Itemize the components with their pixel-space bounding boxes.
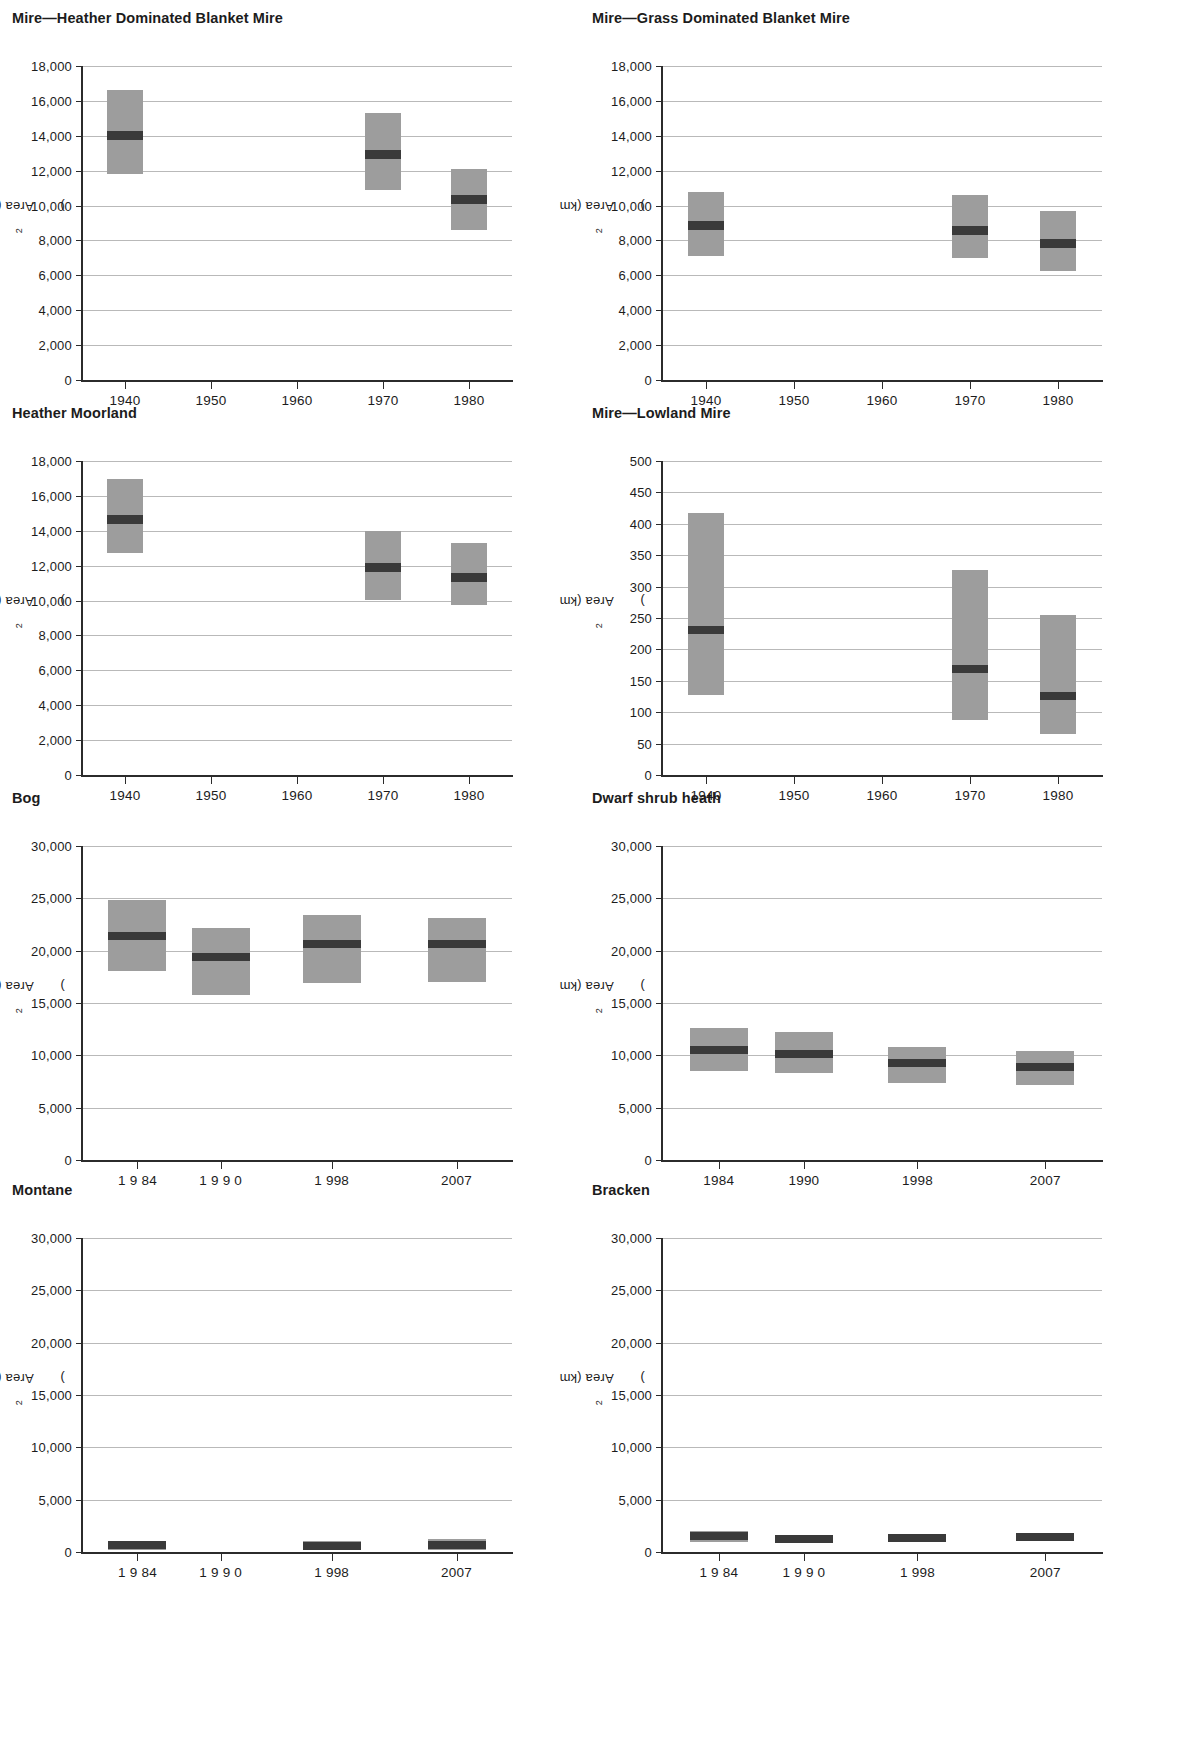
y-tick-label: 14,000 [31, 523, 72, 538]
gridline [662, 587, 1102, 588]
gridline [82, 1108, 512, 1109]
gridline [662, 1395, 1102, 1396]
median-marker [1016, 1063, 1074, 1071]
x-tick-mark [706, 777, 707, 784]
x-tick-mark [297, 777, 298, 784]
gridline [82, 66, 512, 67]
y-tick-label: 0 [65, 768, 72, 783]
y-axis-label-exponent: 2 [594, 1400, 604, 1405]
gridline [662, 66, 1102, 67]
x-tick-mark [970, 382, 971, 389]
gridline [662, 275, 1102, 276]
range-box [428, 918, 486, 982]
y-axis-label-exponent: 2 [14, 623, 24, 628]
x-tick-mark [719, 1162, 720, 1169]
x-tick-mark [970, 777, 971, 784]
y-axis-label: Area (km2) [12, 32, 32, 380]
gridline [662, 206, 1102, 207]
chart-title: Dwarf shrub heath [592, 790, 1192, 806]
plot-area: Area (km2)02,0004,0006,0008,00010,00012,… [592, 32, 1192, 420]
y-axis-label: Area (km2) [592, 812, 612, 1160]
median-marker [688, 626, 724, 634]
gridline [662, 1290, 1102, 1291]
median-marker [108, 1541, 166, 1549]
x-tick-mark [794, 777, 795, 784]
gridline [662, 1003, 1102, 1004]
y-tick-label: 200 [630, 642, 652, 657]
range-box [688, 513, 724, 694]
gridline [82, 136, 512, 137]
x-tick-mark [221, 1554, 222, 1561]
chart-title: Mire—Heather Dominated Blanket Mire [12, 10, 572, 26]
y-tick-label: 400 [630, 516, 652, 531]
gridline [662, 524, 1102, 525]
y-tick-label: 350 [630, 548, 652, 563]
plot-area: Area (km2)05,00010,00015,00020,00025,000… [592, 812, 1192, 1200]
gridline [82, 1003, 512, 1004]
plot-area: Area (km2)05,00010,00015,00020,00025,000… [12, 1204, 572, 1592]
median-marker [451, 195, 487, 204]
y-tick-label: 4,000 [38, 303, 72, 318]
y-tick-label: 150 [630, 673, 652, 688]
x-tick-label: 1 998 [314, 1565, 349, 1580]
gridline [82, 461, 512, 462]
chart-title: Bog [12, 790, 572, 806]
gridline [82, 275, 512, 276]
y-tick-label: 20,000 [611, 1335, 652, 1350]
x-tick-mark [469, 382, 470, 389]
gridline [662, 1343, 1102, 1344]
median-marker [1040, 692, 1076, 700]
median-marker [365, 150, 401, 159]
y-tick-label: 0 [645, 768, 652, 783]
x-axis-line [661, 1552, 1103, 1554]
x-tick-mark [211, 777, 212, 784]
median-marker [303, 940, 361, 948]
y-tick-label: 14,000 [31, 128, 72, 143]
chart-panel: Mire—Grass Dominated Blanket MireArea (k… [592, 10, 1192, 420]
y-tick-label: 10,000 [611, 198, 652, 213]
y-tick-label: 18,000 [611, 59, 652, 74]
plot-area: Area (km2)05,00010,00015,00020,00025,000… [592, 1204, 1192, 1592]
gridline [82, 310, 512, 311]
y-axis-label: Area (km2) [592, 32, 612, 380]
x-tick-mark [383, 382, 384, 389]
gridline [662, 1238, 1102, 1239]
y-tick-label: 100 [630, 705, 652, 720]
y-axis-line [661, 846, 663, 1161]
y-axis-label-close: ) [10, 1370, 64, 1385]
y-tick-label: 25,000 [611, 1283, 652, 1298]
y-tick-label: 6,000 [38, 663, 72, 678]
y-tick-label: 50 [637, 736, 652, 751]
y-tick-label: 300 [630, 579, 652, 594]
y-axis-label-close: ) [10, 978, 64, 993]
chart-panel: Heather MoorlandArea (km2)02,0004,0006,0… [12, 405, 572, 815]
median-marker [428, 1541, 486, 1549]
x-tick-label: 1 998 [900, 1565, 935, 1580]
x-axis-line [81, 1552, 513, 1554]
gridline [82, 601, 512, 602]
x-tick-mark [457, 1554, 458, 1561]
gridline [82, 1290, 512, 1291]
median-marker [952, 665, 988, 673]
y-axis-line [81, 1238, 83, 1553]
median-marker [108, 932, 166, 940]
y-tick-label: 2,000 [38, 338, 72, 353]
y-tick-label: 8,000 [618, 233, 652, 248]
y-tick-label: 15,000 [611, 1388, 652, 1403]
y-tick-label: 4,000 [38, 698, 72, 713]
median-marker [1040, 239, 1076, 248]
median-marker [952, 226, 988, 235]
y-axis-line [661, 1238, 663, 1553]
gridline [82, 171, 512, 172]
x-tick-mark [297, 382, 298, 389]
x-tick-mark [457, 1162, 458, 1169]
plot-area: Area (km2)05,00010,00015,00020,00025,000… [12, 812, 572, 1200]
y-tick-label: 6,000 [38, 268, 72, 283]
x-tick-mark [383, 777, 384, 784]
range-box [192, 928, 250, 996]
gridline [662, 681, 1102, 682]
y-tick-label: 20,000 [31, 1335, 72, 1350]
gridline [82, 531, 512, 532]
y-tick-label: 0 [65, 1545, 72, 1560]
x-tick-label: 2007 [1030, 1565, 1061, 1580]
